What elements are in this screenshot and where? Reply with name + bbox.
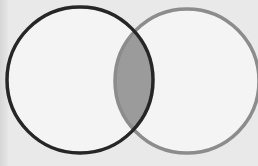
venn-diagram <box>0 0 258 166</box>
venn-svg <box>0 0 258 166</box>
